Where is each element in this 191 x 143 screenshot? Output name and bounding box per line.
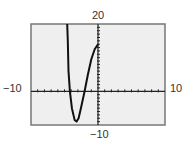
graph-window	[0, 0, 191, 143]
